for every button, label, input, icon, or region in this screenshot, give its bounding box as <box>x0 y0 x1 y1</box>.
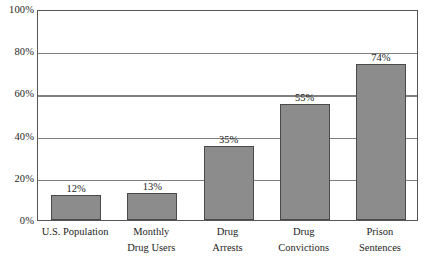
y-axis-tick-label: 100% <box>0 5 34 15</box>
category-label-line: Monthly <box>113 224 189 240</box>
category-label-line: Sentences <box>342 240 418 256</box>
category-label-line: Drug Users <box>113 240 189 256</box>
x-axis-category-label: MonthlyDrug Users <box>113 224 189 255</box>
category-label-line: Prison <box>342 224 418 240</box>
bar-value-label: 35% <box>219 134 238 145</box>
category-label-line: Arrests <box>189 240 265 256</box>
bar-value-label: 13% <box>143 181 162 192</box>
x-axis-category-label: U.S. Population <box>37 224 113 240</box>
bar: 35% <box>204 146 254 220</box>
bar-value-label: 12% <box>66 183 85 194</box>
plot-area: 12%13%35%55%74% <box>37 10 418 221</box>
bar-value-label: 55% <box>295 92 314 103</box>
x-axis-category-label: PrisonSentences <box>342 224 418 255</box>
bar-chart: 0%20%40%60%80%100% 12%13%35%55%74% U.S. … <box>0 0 427 263</box>
category-label-line: Drug <box>266 224 342 240</box>
y-axis-tick-label: 20% <box>0 174 34 184</box>
y-axis-tick-label: 60% <box>0 89 34 99</box>
category-label-line: U.S. Population <box>37 224 113 240</box>
y-axis-tick-label: 80% <box>0 47 34 57</box>
y-axis-tick-label: 40% <box>0 132 34 142</box>
bar: 55% <box>280 104 330 220</box>
bar: 74% <box>356 64 406 220</box>
y-axis-tick-label: 0% <box>0 216 34 226</box>
bar: 13% <box>127 193 177 220</box>
bar-value-label: 74% <box>371 52 390 63</box>
x-axis-category-label: DrugArrests <box>189 224 265 255</box>
x-axis-category-labels: U.S. PopulationMonthlyDrug UsersDrugArre… <box>37 224 418 263</box>
y-axis: 0%20%40%60%80%100% <box>0 0 34 263</box>
category-label-line: Convictions <box>266 240 342 256</box>
x-axis-category-label: DrugConvictions <box>266 224 342 255</box>
bar: 12% <box>51 195 101 220</box>
category-label-line: Drug <box>189 224 265 240</box>
bars-group: 12%13%35%55%74% <box>38 11 417 220</box>
